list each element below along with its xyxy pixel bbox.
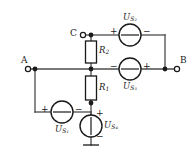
source-label-us1-subscript: S₁ — [62, 127, 69, 134]
terminal-c-marker — [80, 32, 85, 37]
node-dot-center — [89, 67, 94, 72]
source-us1-minus-sign: − — [75, 105, 83, 114]
resistor-label-r2: R2 — [99, 46, 109, 55]
terminal-label-b: B — [180, 56, 187, 65]
resistor-r2-body — [86, 41, 97, 63]
terminal-b-marker — [174, 66, 179, 71]
source-label-us3-subscript: S₃ — [130, 84, 137, 91]
source-us1-plus-sign: + — [41, 105, 49, 114]
source-label-us4: US₄ — [104, 121, 118, 130]
terminal-label-c: C — [70, 29, 77, 38]
terminal-a-marker — [25, 66, 30, 71]
node-dot-c — [89, 33, 94, 38]
resistor-label-r1-subscript: 1 — [105, 85, 109, 92]
resistor-r1-body — [86, 76, 97, 100]
source-us4-plus-sign: + — [96, 109, 104, 118]
source-label-us3: US₃ — [123, 82, 137, 91]
source-label-us1: US₁ — [55, 125, 69, 134]
source-us4-minus-sign: − — [96, 132, 104, 141]
source-label-us4-subscript: S₄ — [111, 123, 118, 130]
source-us3-plus-sign: + — [143, 62, 151, 71]
node-dot-right — [163, 67, 168, 72]
source-label-us2: US₂ — [123, 13, 137, 22]
source-label-us2-subscript: S₂ — [130, 15, 137, 22]
source-us2-minus-sign: − — [143, 27, 151, 36]
terminal-label-a: A — [21, 56, 28, 65]
circuit-diagram-canvas: A B C R2 R1 US₂ + − US₃ − + US₁ + − US₄ … — [0, 0, 196, 154]
node-dot-r1-bottom — [89, 101, 94, 106]
source-us2-plus-sign: + — [110, 27, 118, 36]
resistor-label-r1: R1 — [99, 83, 109, 92]
source-us3-minus-sign: − — [110, 62, 118, 71]
resistor-label-r2-subscript: 2 — [105, 48, 109, 55]
node-dot-left — [33, 67, 38, 72]
